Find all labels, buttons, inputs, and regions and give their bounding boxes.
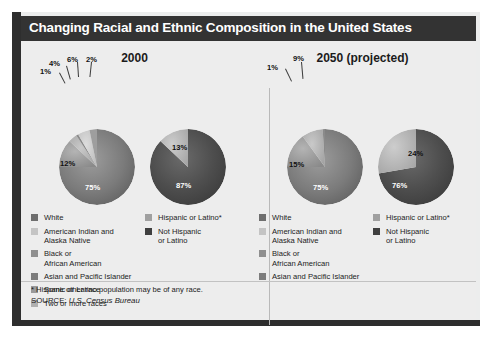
page-title: Changing Racial and Ethnic Composition i… (29, 20, 412, 35)
legend-ethnicity-2050: Hispanic or Latino* Not Hispanicor Latin… (373, 213, 473, 249)
legend-swatch-asian (259, 273, 266, 280)
legend-label-asian: Asian and Pacific Islander (44, 272, 131, 281)
pie-race-2000: 75% 12% (59, 129, 135, 205)
pie-race-2050-asian-callout: 9% (293, 54, 304, 63)
legend-label-black: Black or (272, 249, 299, 258)
legend-label-american-indian-line2: Alaska Native (272, 236, 367, 246)
legend-label-american-indian: American Indian and (44, 227, 114, 236)
legend-item[interactable]: White (259, 213, 367, 223)
legend-item[interactable]: Asian and Pacific Islander (259, 272, 367, 282)
legend-race-2050: White American Indian andAlaska Native B… (259, 213, 367, 285)
legend-swatch-not-hispanic (145, 228, 152, 235)
legend-swatch-american-indian (31, 228, 38, 235)
pie-ethnicity-2050: 76% 24% (378, 129, 454, 205)
pie-ethnicity-2000-svg (150, 129, 226, 205)
legend-item[interactable]: American Indian andAlaska Native (31, 227, 139, 246)
leader-line-asian-2000 (66, 66, 71, 80)
legend-label-not-hispanic: Not Hispanic (158, 227, 201, 236)
chart-body: 2000 (21, 41, 476, 320)
legend-label-hispanic: Hispanic or Latino* (158, 213, 222, 222)
panel-2000: 2000 (21, 41, 248, 320)
legend-ethnicity-2000: Hispanic or Latino* Not Hispanicor Latin… (145, 213, 245, 249)
legend-item[interactable]: Asian and Pacific Islander (31, 272, 139, 282)
legend-item[interactable]: Not Hispanicor Latino (145, 227, 245, 246)
pie-ethnicity-2050-nothisp-pct: 76% (392, 181, 407, 190)
legend-label-not-hispanic-line2: or Latino (158, 236, 245, 246)
leader-line-amind-2050 (285, 69, 292, 82)
legend-item[interactable]: American Indian andAlaska Native (259, 227, 367, 246)
legend-label-black-line2: African American (44, 259, 139, 269)
legend-item[interactable]: Not Hispanicor Latino (373, 227, 473, 246)
source-label: SOURCE: (31, 296, 67, 305)
legend-swatch-american-indian (259, 228, 266, 235)
left-accent-rail (12, 12, 21, 326)
legend-item[interactable]: Hispanic or Latino* (145, 213, 245, 223)
legend-swatch-hispanic (145, 214, 152, 221)
legend-swatch-hispanic (373, 214, 380, 221)
panel-heading-2050: 2050 (projected) (249, 51, 476, 65)
title-bar: Changing Racial and Ethnic Composition i… (21, 16, 476, 41)
legend-item[interactable]: Black orAfrican American (259, 249, 367, 268)
pie-ethnicity-2000-nothisp-pct: 87% (176, 181, 191, 190)
panel-2050: 2050 (projected) 75% 15% (249, 41, 476, 320)
footer-rule (21, 281, 476, 282)
legend-label-asian: Asian and Pacific Islander (272, 272, 359, 281)
legend-swatch-asian (31, 273, 38, 280)
pie-race-2050: 75% 15% (287, 129, 363, 205)
footnote: * Hispanic or Latino population may be o… (31, 285, 203, 294)
legend-label-black: Black or (44, 249, 71, 258)
legend-swatch-black (259, 250, 266, 257)
legend-label-black-line2: African American (272, 259, 367, 269)
legend-label-not-hispanic: Not Hispanic (386, 227, 429, 236)
source-organization: U.S. Census Bureau (69, 296, 140, 305)
bottom-accent-rail (12, 320, 480, 326)
infographic-root: Changing Racial and Ethnic Composition i… (0, 0, 492, 338)
legend-swatch-black (31, 250, 38, 257)
pie-race-2000-white-pct: 75% (85, 183, 100, 192)
pie-race-2050-black-pct: 15% (289, 160, 304, 169)
legend-item[interactable]: Black orAfrican American (31, 249, 139, 268)
pie-race-2050-white-pct: 75% (313, 183, 328, 192)
legend-label-hispanic: Hispanic or Latino* (386, 213, 450, 222)
legend-swatch-not-hispanic (373, 228, 380, 235)
pie-ethnicity-2050-svg (378, 129, 454, 205)
legend-label-american-indian: American Indian and (272, 227, 342, 236)
leader-line-amind-2000 (59, 73, 66, 84)
legend-swatch-white (259, 214, 266, 221)
pie-ethnicity-2050-hisp-pct: 24% (408, 149, 423, 158)
legend-label-white: White (44, 213, 63, 222)
pie-ethnicity-2000: 87% 13% (150, 129, 226, 205)
legend-swatch-white (31, 214, 38, 221)
legend-label-white: White (272, 213, 291, 222)
leader-line-two-2000 (89, 62, 92, 77)
source-line: SOURCE: U.S. Census Bureau (31, 296, 140, 305)
legend-item[interactable]: Hispanic or Latino* (373, 213, 473, 223)
legend-item[interactable]: White (31, 213, 139, 223)
pie-race-2000-asian-callout: 4% (49, 59, 60, 68)
legend-label-not-hispanic-line2: or Latino (386, 236, 473, 246)
pie-race-2050-amind-callout: 1% (267, 63, 278, 72)
pie-ethnicity-2000-hisp-pct: 13% (172, 143, 187, 152)
pie-race-2000-black-pct: 12% (60, 159, 75, 168)
legend-label-american-indian-line2: Alaska Native (44, 236, 139, 246)
pie-race-2000-amind-callout: 1% (40, 67, 51, 76)
